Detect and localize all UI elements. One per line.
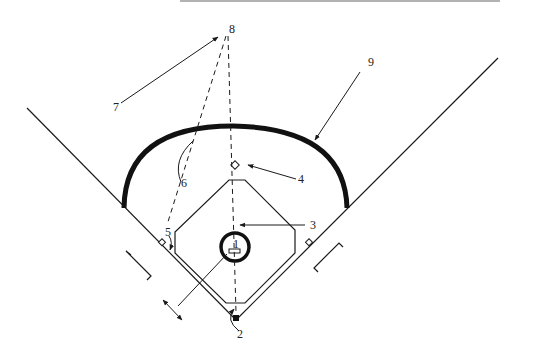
- dashed-line-center: [228, 36, 236, 312]
- arrow-7: [121, 37, 218, 103]
- right-foul-line: [236, 58, 498, 320]
- label-6: 6: [181, 176, 187, 190]
- label-3: 3: [310, 218, 316, 232]
- label-7: 7: [113, 100, 119, 114]
- third-base: [158, 239, 165, 246]
- label-1: 1: [233, 237, 239, 251]
- home-plate: [233, 315, 239, 321]
- label-5: 5: [165, 225, 171, 239]
- label-8: 8: [229, 22, 235, 36]
- third-base-coach-box: [126, 251, 151, 280]
- label-2: 2: [237, 327, 243, 341]
- baseball-field-diagram: 1 2 3 4 5 6 7 8 9: [0, 0, 533, 357]
- label-4: 4: [298, 172, 304, 186]
- arrow-4: [248, 165, 296, 179]
- arrow-1-cross: [163, 300, 182, 320]
- label-9: 9: [368, 55, 374, 69]
- arrow-9: [315, 72, 360, 140]
- arrow-1-double: [178, 254, 227, 306]
- left-foul-line: [27, 108, 236, 320]
- first-base-coach-box: [314, 243, 343, 272]
